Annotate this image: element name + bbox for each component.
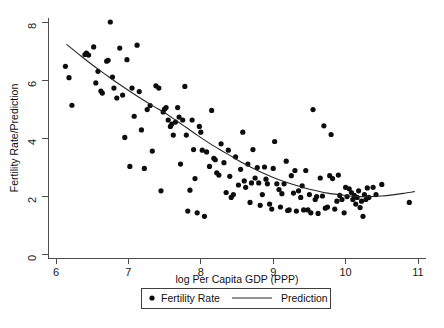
data-point: [139, 127, 144, 132]
data-point: [185, 208, 190, 213]
data-point: [91, 44, 96, 49]
data-point: [357, 205, 362, 210]
data-point: [204, 149, 209, 154]
data-point: [379, 182, 384, 187]
data-point: [111, 86, 116, 91]
data-point: [163, 105, 168, 110]
data-point: [209, 108, 214, 113]
data-point: [134, 43, 139, 48]
data-point: [226, 148, 231, 153]
data-point: [355, 195, 360, 200]
data-point: [271, 166, 276, 171]
x-tick-label: 6: [53, 266, 59, 278]
data-point: [93, 80, 98, 85]
data-point: [191, 147, 196, 152]
data-point: [356, 188, 361, 193]
data-point: [224, 190, 229, 195]
data-point: [308, 210, 313, 215]
data-point: [279, 191, 284, 196]
x-tick-label: 11: [412, 266, 423, 278]
data-point: [117, 46, 122, 51]
data-point: [256, 180, 261, 185]
y-axis-ticks: 02468: [26, 22, 48, 261]
data-point: [122, 135, 127, 140]
data-point: [213, 157, 218, 162]
data-point: [66, 75, 71, 80]
data-point: [120, 92, 125, 97]
data-point: [124, 57, 129, 62]
data-point: [296, 188, 301, 193]
data-point: [307, 192, 312, 197]
data-point: [150, 148, 155, 153]
data-point: [108, 19, 113, 24]
x-axis-title: log Per Capita GDP (PPP): [176, 273, 299, 285]
data-point: [267, 202, 272, 207]
prediction-curve-layer: [67, 45, 415, 197]
data-point: [407, 200, 412, 205]
data-point: [329, 132, 334, 137]
data-point: [342, 210, 347, 215]
data-point: [221, 160, 226, 165]
data-point: [63, 64, 68, 69]
data-point: [247, 200, 252, 205]
data-point: [227, 174, 232, 179]
data-point: [366, 195, 371, 200]
data-point: [318, 175, 323, 180]
data-point: [330, 176, 335, 181]
y-axis: 02468 Fertility Rate/Prediction: [8, 18, 48, 261]
data-point: [250, 147, 255, 152]
data-point: [303, 168, 308, 173]
data-point: [166, 117, 171, 122]
data-point: [243, 185, 248, 190]
legend-label-prediction: Prediction: [281, 292, 328, 304]
data-point: [86, 52, 91, 57]
data-point: [190, 117, 195, 122]
data-point: [231, 192, 236, 197]
data-point: [269, 206, 274, 211]
data-point: [262, 164, 267, 169]
data-point: [371, 185, 376, 190]
y-axis-title: Fertility Rate/Prediction: [8, 84, 20, 193]
data-point: [158, 188, 163, 193]
data-point: [320, 193, 325, 198]
y-tick-label: 8: [26, 23, 38, 29]
data-point: [291, 191, 296, 196]
data-point: [184, 133, 189, 138]
y-tick-label: 6: [26, 81, 38, 87]
data-point: [365, 185, 370, 190]
data-point: [142, 166, 147, 171]
data-point: [129, 86, 134, 91]
data-point: [180, 117, 185, 122]
data-point: [178, 162, 183, 167]
data-point: [216, 173, 221, 178]
data-point: [278, 204, 283, 209]
legend-label-fertility-rate: Fertility Rate: [161, 292, 220, 304]
data-point: [265, 181, 270, 186]
data-point: [236, 182, 241, 187]
data-point: [132, 114, 137, 119]
x-tick-label: 7: [125, 266, 131, 278]
chart-canvas: 02468 Fertility Rate/Prediction 67891011…: [0, 0, 444, 328]
data-point: [253, 175, 258, 180]
data-point: [198, 130, 203, 135]
data-point: [298, 195, 303, 200]
scatter-points-layer: [63, 19, 412, 219]
legend: Fertility Rate Prediction: [141, 288, 330, 308]
data-point: [339, 197, 344, 202]
data-point: [195, 210, 200, 215]
data-point: [260, 192, 265, 197]
data-point: [292, 168, 297, 173]
y-tick-label: 0: [26, 255, 38, 261]
data-point: [106, 58, 111, 63]
data-point: [249, 180, 254, 185]
data-point: [137, 89, 142, 94]
data-point: [315, 211, 320, 216]
data-point: [353, 202, 358, 207]
data-point: [238, 167, 243, 172]
data-point: [156, 86, 161, 91]
prediction-curve: [67, 45, 415, 197]
data-point: [242, 178, 247, 183]
data-point: [294, 208, 299, 213]
data-point: [100, 90, 105, 95]
data-point: [258, 203, 263, 208]
